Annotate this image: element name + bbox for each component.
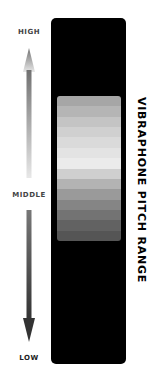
arrow-up-icon — [23, 48, 35, 178]
pitch-band — [57, 169, 121, 179]
pitch-band — [57, 220, 121, 230]
pitch-band — [57, 200, 121, 210]
pitch-band — [57, 210, 121, 220]
pitch-band — [57, 96, 121, 106]
pitch-band — [57, 179, 121, 189]
pitch-band — [57, 137, 121, 147]
pitch-band — [57, 117, 121, 127]
pitch-band — [57, 148, 121, 158]
pitch-band — [57, 158, 121, 168]
pitch-band — [57, 231, 121, 241]
pitch-band — [57, 189, 121, 199]
chart-title: VIBRAPHONE PITCH RANGE — [135, 97, 148, 283]
pitch-band — [57, 106, 121, 116]
arrow-down-icon — [23, 210, 35, 342]
pitch-range-bands — [57, 96, 121, 241]
pitch-band — [57, 127, 121, 137]
